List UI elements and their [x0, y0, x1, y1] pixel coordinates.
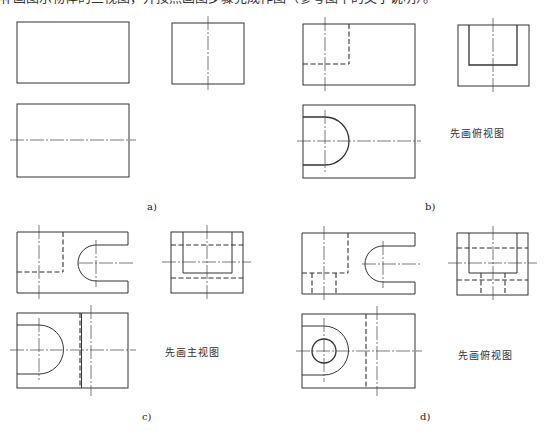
panel-b-top-view — [297, 105, 421, 178]
panel-d-top-view — [296, 306, 422, 396]
panel-b-note: 先画俯视图 — [450, 125, 505, 140]
panel-c-note: 先画主视图 — [165, 344, 220, 359]
panel-b — [297, 17, 529, 178]
panel-a-side-view — [172, 16, 244, 91]
panel-b-label: b) — [425, 201, 435, 212]
panel-c-top-view — [10, 305, 136, 396]
panel-d — [296, 226, 537, 396]
panel-c-front-view — [17, 225, 135, 300]
panel-a-front-view — [17, 22, 129, 83]
three-view-drawings: .ol { fill: none; stroke: #333; stroke-w… — [0, 0, 548, 430]
panel-d-side-view — [448, 226, 537, 302]
panel-b-side-view — [458, 18, 529, 93]
panel-c — [10, 225, 251, 396]
panel-c-label: c) — [142, 411, 152, 422]
panel-b-front-view — [303, 17, 415, 92]
panel-d-label: d) — [420, 411, 430, 422]
panel-a-top-view — [10, 104, 136, 177]
panel-a — [10, 16, 244, 177]
panel-a-label: a) — [147, 201, 157, 212]
panel-c-side-view — [162, 225, 251, 300]
panel-d-note: 先画俯视图 — [458, 347, 513, 362]
panel-d-front-view — [302, 226, 421, 301]
